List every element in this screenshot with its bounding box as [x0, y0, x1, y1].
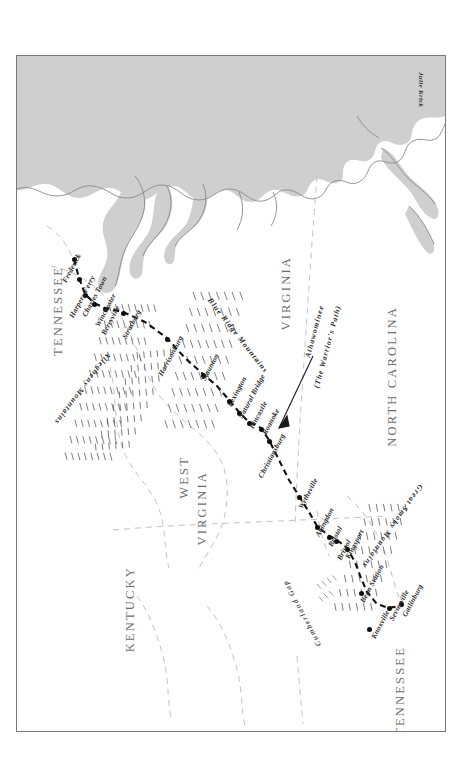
cartographer-credit: Julie Krick [417, 72, 425, 107]
state-label-virginia: VIRGINIA [279, 256, 294, 331]
state-label-west-virginia-2: VIRGINIA [195, 471, 210, 546]
city-dot-strasburg [121, 311, 126, 316]
map-canvas: Julie Krick TENNESSEE VIRGINIA NORTH CAR… [16, 55, 446, 732]
state-label-kentucky: KENTUCKY [123, 566, 138, 652]
city-dot-christiansburg [267, 439, 272, 444]
city-dot-harrisonburg [165, 337, 170, 342]
state-label-tennessee-south: TENNESSEE [393, 646, 408, 732]
state-borders [47, 176, 403, 726]
warriors-path-arrow [279, 356, 313, 428]
city-dot-harpers-ferry [77, 277, 82, 282]
state-label-west-virginia-1: WEST [177, 456, 192, 499]
state-label-north-carolina: NORTH CAROLINA [385, 306, 400, 447]
